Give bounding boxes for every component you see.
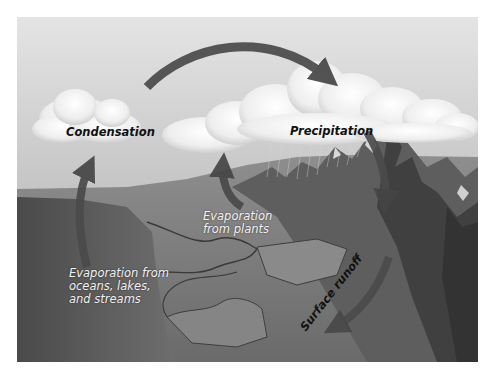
condensation-label: Condensation bbox=[66, 126, 155, 139]
landscape-illustration bbox=[17, 17, 478, 362]
precipitation-label: Precipitation bbox=[290, 125, 373, 138]
evaporation-from-plants-label: Evaporation from plants bbox=[203, 210, 272, 236]
evaporation-plants-line-2: from plants bbox=[203, 223, 272, 236]
water-cycle-diagram: Condensation Precipitation Evaporation f… bbox=[17, 17, 478, 362]
evaporation-water-line-3: and streams bbox=[69, 293, 169, 306]
evaporation-from-water-label: Evaporation from oceans, lakes, and stre… bbox=[69, 267, 169, 307]
